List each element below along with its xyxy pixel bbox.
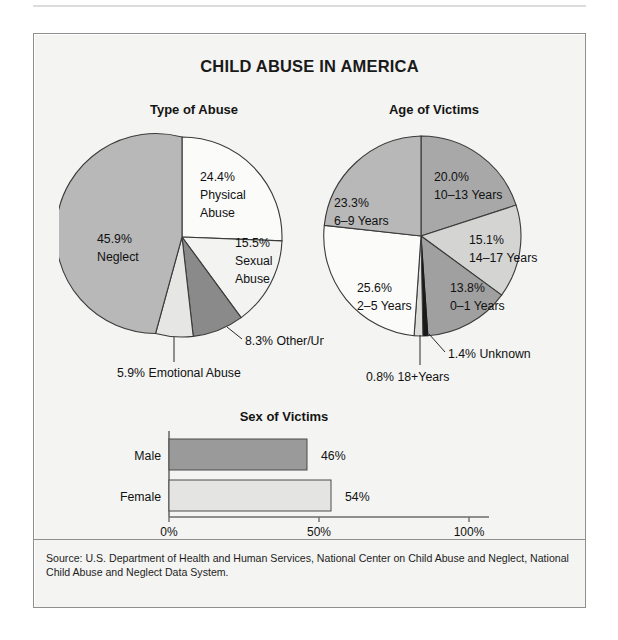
pie-chart-type-of-abuse: 24.4% Physical Abuse 15.5% Sexual Abuse … bbox=[59, 119, 324, 389]
pie2-label-2-5-text: 2–5 Years bbox=[357, 299, 412, 313]
leader-line-other-unknown bbox=[227, 327, 242, 339]
bar-female bbox=[169, 480, 331, 511]
pie1-label-physical-line1: Physical bbox=[200, 188, 246, 202]
panel-title-type-of-abuse: Type of Abuse bbox=[94, 102, 294, 117]
bar-chart-sex-of-victims: Male Female 46% 54% 0% 50% 100% bbox=[89, 429, 529, 539]
leader-line-age-unknown bbox=[429, 334, 445, 352]
pie1-label-emotional-abuse: 5.9% Emotional Abuse bbox=[117, 366, 241, 380]
pie1-label-sexual-line1: Sexual bbox=[235, 254, 273, 268]
panel-title-sex-of-victims: Sex of Victims bbox=[184, 409, 384, 424]
pie1-label-neglect-pct: 45.9% bbox=[97, 232, 132, 246]
pie1-label-neglect-line1: Neglect bbox=[97, 250, 139, 264]
panel-title-age-of-victims: Age of Victims bbox=[334, 102, 534, 117]
page-title: CHILD ABUSE IN AMERICA bbox=[34, 57, 585, 76]
bar-category-label-female: Female bbox=[120, 490, 161, 504]
top-divider-rule bbox=[33, 5, 586, 7]
pie2-label-unknown: 1.4% Unknown bbox=[448, 347, 531, 361]
pie1-label-physical-line2: Abuse bbox=[200, 206, 235, 220]
source-divider bbox=[34, 539, 585, 540]
infographic-frame: CHILD ABUSE IN AMERICA Type of Abuse Age… bbox=[33, 33, 586, 608]
bar-category-label-male: Male bbox=[134, 449, 161, 463]
pie2-label-10-13-text: 10–13 Years bbox=[434, 188, 502, 202]
pie2-label-14-17-text: 14–17 Years bbox=[469, 251, 537, 265]
pie2-label-0-1-pct: 13.8% bbox=[450, 281, 485, 295]
source-note: Source: U.S. Department of Health and Hu… bbox=[46, 551, 574, 579]
pie1-label-sexual-line2: Abuse bbox=[235, 272, 270, 286]
pie1-label-sexual-pct: 15.5% bbox=[235, 236, 270, 250]
pie1-label-physical-pct: 24.4% bbox=[200, 170, 235, 184]
x-axis-tick-label-100: 100% bbox=[454, 525, 485, 539]
x-axis-tick-label-50: 50% bbox=[307, 525, 331, 539]
x-axis-tick-label-0: 0% bbox=[160, 525, 178, 539]
pie2-label-6-9-text: 6–9 Years bbox=[334, 214, 389, 228]
bar-male bbox=[169, 439, 307, 470]
bar-value-label-female: 54% bbox=[345, 490, 370, 504]
infographic-page: CHILD ABUSE IN AMERICA Type of Abuse Age… bbox=[0, 0, 618, 640]
pie2-label-0-1-text: 0–1 Years bbox=[450, 299, 505, 313]
pie2-label-14-17-pct: 15.1% bbox=[469, 233, 504, 247]
pie2-label-10-13-pct: 20.0% bbox=[434, 170, 469, 184]
bar-value-label-male: 46% bbox=[321, 449, 346, 463]
pie-chart-age-of-victims: 20.0% 10–13 Years 15.1% 14–17 Years 13.8… bbox=[299, 119, 569, 394]
pie2-label-18-plus: 0.8% 18+Years bbox=[366, 370, 449, 384]
pie2-label-6-9-pct: 23.3% bbox=[334, 196, 369, 210]
pie2-label-2-5-pct: 25.6% bbox=[357, 281, 392, 295]
